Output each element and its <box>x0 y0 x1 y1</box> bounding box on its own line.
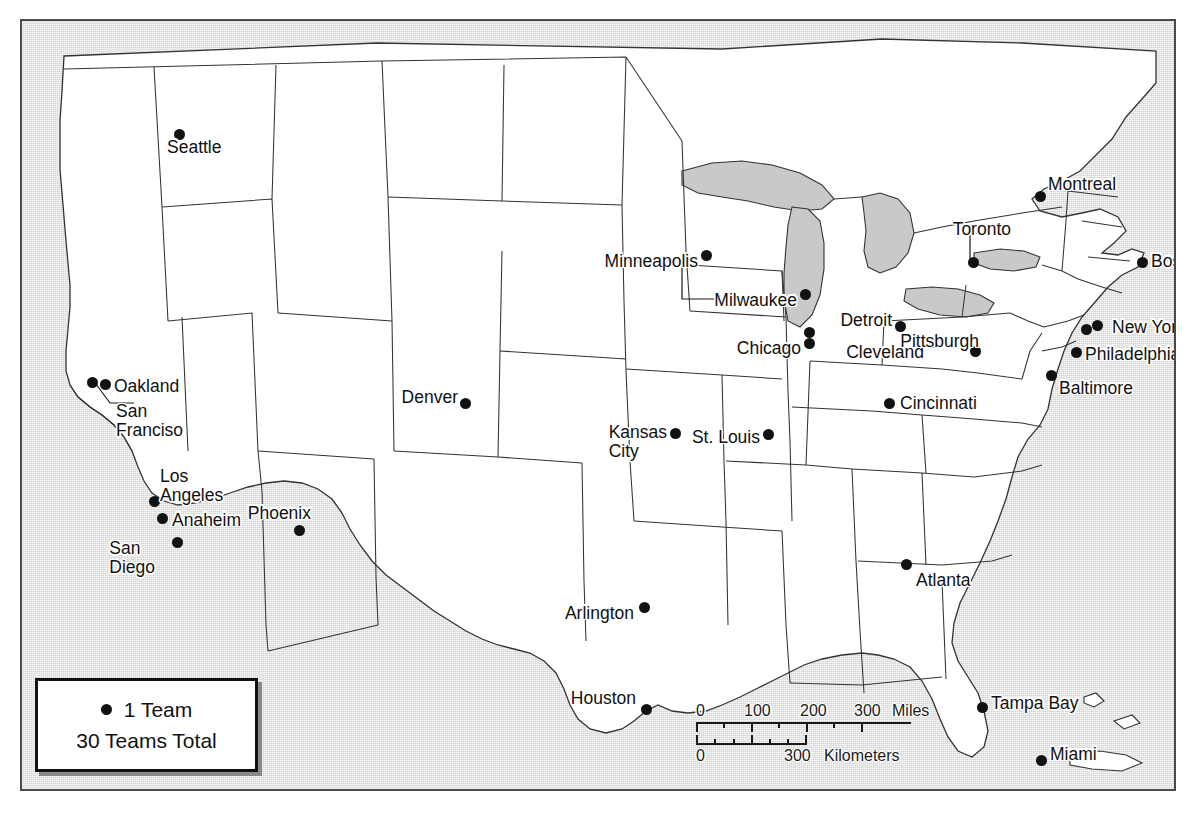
city-label: San Diego <box>109 539 155 577</box>
bahamas-island-1 <box>1084 693 1104 707</box>
city-dot <box>460 398 471 409</box>
scale-miles-200: 200 <box>800 702 827 720</box>
city-label: Kansas City <box>609 423 667 461</box>
scale-miles-300: 300 <box>854 702 881 720</box>
city-label: St. Louis <box>692 428 760 447</box>
city-label: Atlanta <box>916 571 970 590</box>
city-dot <box>172 537 183 548</box>
scale-km-300: 300 <box>784 747 811 765</box>
city-label: Minneapolis <box>605 252 698 271</box>
city-label: Boston <box>1151 252 1176 271</box>
filled-circle-icon <box>101 704 112 715</box>
city-label: Phoenix <box>248 504 311 523</box>
us-landmass <box>60 39 1156 757</box>
city-dot <box>641 704 652 715</box>
city-label: Miami <box>1050 745 1097 764</box>
landmass-layer <box>60 39 1156 757</box>
city-label: Arlington <box>565 604 634 623</box>
city-dot <box>670 428 681 439</box>
scale-km-unit: Kilometers <box>824 747 900 765</box>
city-dot <box>294 525 305 536</box>
bahamas-island-2 <box>1114 715 1140 729</box>
city-label: Chicago <box>737 339 801 358</box>
city-dot <box>1092 320 1103 331</box>
scale-bar: 0 100 200 300 Miles <box>696 702 911 767</box>
scale-km-0: 0 <box>696 747 705 765</box>
scale-km-ruler <box>696 733 911 745</box>
scale-miles-unit: Miles <box>892 702 929 720</box>
city-dot <box>149 496 160 507</box>
city-dot <box>1035 191 1046 202</box>
city-label: New York <box>1112 318 1176 337</box>
scale-miles-ruler <box>696 722 911 733</box>
city-dot <box>968 257 979 268</box>
map-frame: SeattleOaklandSan FrancisoLos AngelesAna… <box>20 19 1176 791</box>
scale-km-labels: 0 300 Kilometers <box>696 745 911 767</box>
city-label: Houston <box>571 689 636 708</box>
city-label: Detroit <box>840 311 892 330</box>
legend-unit-row: 1 Team <box>101 698 193 722</box>
city-label: San Franciso <box>116 402 183 440</box>
city-label: Pittsburgh <box>900 332 979 351</box>
city-dot <box>639 602 650 613</box>
city-dot <box>763 429 774 440</box>
city-dot <box>701 250 712 261</box>
city-dot <box>157 513 168 524</box>
city-label: Tampa Bay <box>991 694 1079 713</box>
city-label: Montreal <box>1048 175 1116 194</box>
city-label: Anaheim <box>172 511 241 530</box>
legend-unit-label: 1 Team <box>124 698 193 722</box>
city-label: Toronto <box>953 220 1011 239</box>
map-page: SeattleOaklandSan FrancisoLos AngelesAna… <box>0 0 1198 813</box>
map-legend: 1 Team 30 Teams Total <box>35 678 258 772</box>
city-dot <box>977 702 988 713</box>
city-dot <box>1081 324 1092 335</box>
city-label: Baltimore <box>1059 379 1133 398</box>
city-label: Philadelphia <box>1085 345 1176 364</box>
city-dot <box>1036 755 1047 766</box>
city-dot <box>901 559 912 570</box>
scale-miles-labels: 0 100 200 300 Miles <box>696 702 911 722</box>
scale-miles-100: 100 <box>744 702 771 720</box>
city-label: Denver <box>402 388 458 407</box>
city-label: Seattle <box>167 138 221 157</box>
city-label: Oakland <box>114 377 179 396</box>
scale-miles-0: 0 <box>696 702 705 720</box>
city-label: Milwaukee <box>714 291 797 310</box>
city-label: Los Angeles <box>160 467 223 505</box>
city-dot <box>100 379 111 390</box>
city-dot <box>804 338 815 349</box>
city-dot <box>87 377 98 388</box>
figure-caption <box>22 797 1122 811</box>
city-label: Cincinnati <box>900 394 977 413</box>
city-dot <box>884 398 895 409</box>
city-dot <box>1071 347 1082 358</box>
city-dot <box>804 327 815 338</box>
city-dot <box>800 289 811 300</box>
city-dot <box>1046 370 1057 381</box>
city-dot <box>1137 257 1148 268</box>
legend-total-label: 30 Teams Total <box>76 729 216 753</box>
